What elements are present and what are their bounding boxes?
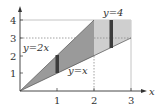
strip-left [56,55,60,73]
region-diagram: 1 2 3 x 1 2 3 4 y=2x y=x y=4 [0,0,156,109]
x-tick-label-1: 1 [54,95,60,106]
x-axis-arrow-icon [141,89,147,93]
y-tick-label-2: 2 [10,51,16,62]
y-tick-label-3: 3 [10,33,16,44]
strip-right [110,20,114,48]
y-tick-label-1: 1 [10,68,16,79]
x-tick-label-3: 3 [128,95,134,106]
x-tick-label-2: 2 [91,95,97,106]
label-y-x: y=x [67,65,88,76]
label-y-4: y=4 [102,7,123,18]
x-axis-label: x [149,86,155,97]
label-y-2x: y=2x [22,42,49,53]
y-tick-label-4: 4 [10,15,16,26]
y-axis-arrow-icon [18,6,22,12]
